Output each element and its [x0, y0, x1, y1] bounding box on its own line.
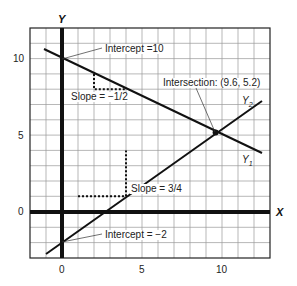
- y-tick-0: 0: [18, 207, 24, 217]
- y-axis-label: Y: [58, 14, 65, 25]
- plot-frame: [30, 28, 270, 258]
- grid: [30, 28, 270, 258]
- x-tick-10: 10: [216, 265, 227, 275]
- x-tick-0: 0: [59, 265, 65, 275]
- y-tick-10: 10: [13, 54, 24, 64]
- x-axis-label: X: [276, 207, 283, 218]
- intersection-annotation: Intersection: (9.6, 5.2): [162, 78, 261, 88]
- slope-three-quarters-annotation: Slope = 3/4: [130, 184, 183, 194]
- y1-label: Y1: [242, 155, 253, 167]
- intercept-10-annotation: Intercept =10: [104, 44, 165, 54]
- intercept-neg2-annotation: Intercept = −2: [104, 230, 168, 240]
- y-tick-5: 5: [18, 131, 24, 141]
- x-tick-5: 5: [139, 265, 145, 275]
- y2-label: Y2: [242, 96, 253, 108]
- intersection-point: [213, 129, 219, 135]
- slope-negative-half-annotation: Slope = −1/2: [70, 92, 129, 102]
- slope-triangle-y2: [78, 150, 126, 196]
